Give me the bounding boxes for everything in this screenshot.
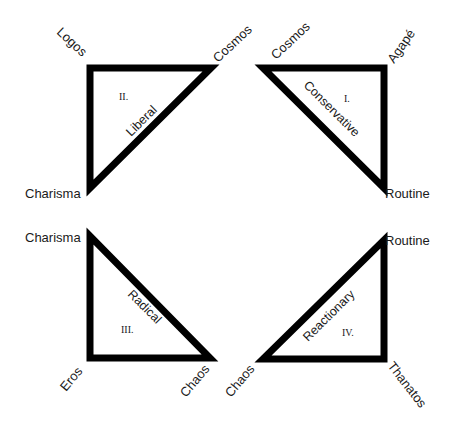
quadrant-reactionary: IV. Reactionary Routine Chaos Thanatos bbox=[222, 233, 430, 411]
triangle-radical bbox=[90, 236, 210, 358]
quadrant-radical: III. Radical Charisma Eros Chaos bbox=[25, 230, 213, 400]
vertex-routine-bottom: Routine bbox=[385, 233, 430, 248]
vertex-routine-top: Routine bbox=[385, 186, 430, 201]
vertex-chaos-right: Chaos bbox=[222, 361, 258, 400]
numeral-ii: II. bbox=[119, 91, 128, 102]
quadrant-conservative: I. Conservative Cosmos Agapé Routine bbox=[263, 18, 430, 201]
vertex-charisma-top: Charisma bbox=[25, 186, 81, 201]
numeral-iii: III. bbox=[121, 324, 134, 335]
triangle-conservative bbox=[263, 68, 384, 188]
triangle-reactionary bbox=[263, 240, 384, 359]
vertex-logos: Logos bbox=[54, 24, 91, 59]
numeral-iv: IV. bbox=[342, 327, 354, 338]
triangle-liberal bbox=[90, 68, 211, 188]
vertex-thanatos: Thanatos bbox=[385, 359, 430, 411]
numeral-i: I. bbox=[344, 93, 350, 104]
vertex-eros: Eros bbox=[57, 363, 86, 394]
vertex-cosmos-right: Cosmos bbox=[268, 18, 313, 62]
vertex-charisma-bottom: Charisma bbox=[25, 230, 81, 245]
typology-diagram: II. Liberal Logos Cosmos Charisma I. Con… bbox=[0, 0, 454, 426]
quadrant-liberal: II. Liberal Logos Cosmos Charisma bbox=[25, 21, 255, 201]
vertex-chaos-left: Chaos bbox=[177, 361, 213, 400]
vertex-cosmos-left: Cosmos bbox=[210, 21, 255, 65]
vertex-agape: Agapé bbox=[384, 26, 418, 65]
